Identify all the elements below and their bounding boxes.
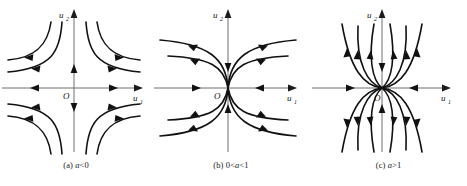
flow-arrow-b-q4-inner	[256, 111, 266, 118]
u2-label-c-letter: u	[367, 10, 372, 20]
traj-a-q3-inner	[8, 104, 62, 154]
flow-arrow-c-down	[379, 104, 386, 113]
flow-arrow-b-q2-inner	[190, 59, 200, 66]
traj-a-q2-inner	[8, 22, 62, 72]
flow-arrow-b-q1-outer	[258, 45, 268, 52]
u1-axis-a	[2, 85, 143, 92]
traj-a-q4-outer	[97, 116, 140, 154]
flow-arrow-a-up	[71, 64, 78, 73]
flow-arrow-b-right	[255, 85, 264, 92]
caption-a: (a) a<0	[0, 160, 152, 170]
caption-b-zero: 0<	[226, 160, 235, 170]
panel-c-plot: u 2 u 1 O	[310, 0, 467, 160]
u1-axis-label-c: u 1	[441, 93, 451, 105]
phase-portrait-figure: u 2 u 1 O	[0, 0, 467, 186]
panel-a-saddle: u 2 u 1 O	[0, 0, 152, 186]
traj-c-q2-inner	[371, 24, 382, 88]
u2-axis-a	[71, 9, 78, 152]
flow-arrow-c-q2-inner	[367, 50, 374, 59]
caption-b-prefix: (b)	[213, 160, 223, 170]
u2-axis-label-c: u 2	[367, 10, 377, 22]
u1-label-c-subscript: 1	[448, 99, 451, 105]
u1-axis-label-b: u 1	[287, 93, 297, 105]
u1-label-b-subscript: 1	[294, 99, 297, 105]
flow-arrow-b-down	[225, 104, 232, 113]
u2-axis-c	[379, 9, 386, 152]
caption-c: (c) a>1	[310, 160, 467, 170]
flow-arrow-a-down	[71, 103, 78, 112]
u2-axis-label-b: u 2	[213, 10, 223, 22]
caption-b-one: <1	[239, 160, 248, 170]
flow-arrow-c-right	[409, 85, 418, 92]
flow-arrow-b-q2-outer	[188, 45, 198, 52]
traj-c-q4-inner	[382, 88, 393, 152]
traj-a-q4-inner	[86, 104, 140, 154]
panel-b-plot: u 2 u 1 O	[152, 0, 310, 160]
u2-label-a-letter: u	[59, 10, 64, 20]
flow-arrow-b-left	[192, 85, 201, 92]
u1-axis-label-a: u 1	[133, 93, 143, 105]
traj-a-q1-outer	[97, 22, 140, 60]
flow-arrow-b-up	[225, 63, 232, 72]
caption-b: (b) 0<a<1	[152, 160, 310, 170]
u2-label-b-subscript: 2	[220, 16, 223, 22]
traj-a-q2-outer	[8, 22, 51, 60]
caption-a-prefix: (a)	[63, 160, 73, 170]
caption-c-relation: >1	[392, 160, 401, 170]
panel-c-node: u 2 u 1 O	[310, 0, 467, 186]
flow-arrow-c-q3-inner	[367, 117, 374, 126]
flow-arrow-c-up	[379, 63, 386, 72]
flow-arrow-a-right	[109, 85, 118, 92]
u1-label-a-letter: u	[133, 93, 138, 103]
flow-arrow-b-q3-inner	[190, 111, 200, 118]
traj-a-q1-inner	[86, 22, 140, 72]
u1-axis-b	[154, 85, 297, 92]
traj-a-q3-outer	[8, 116, 51, 154]
flow-arrow-c-q4-inner	[391, 117, 398, 126]
caption-a-relation: <0	[80, 160, 89, 170]
panel-b-node: u 2 u 1 O	[152, 0, 310, 186]
origin-label-b: O	[214, 91, 221, 101]
origin-label-a: O	[63, 91, 70, 101]
u2-label-b-letter: u	[213, 10, 218, 20]
flow-arrow-b-q3-outer	[188, 125, 198, 132]
traj-c-q1-inner	[382, 24, 393, 88]
flow-arrow-b-q1-inner	[256, 59, 266, 66]
flow-arrow-b-q4-outer	[258, 125, 268, 132]
u2-axis-label-a: u 2	[59, 10, 69, 22]
u1-label-c-letter: u	[441, 93, 446, 103]
flow-arrow-a-left	[30, 85, 39, 92]
u1-label-b-letter: u	[287, 93, 292, 103]
flow-arrow-c-left	[346, 85, 355, 92]
panel-a-plot: u 2 u 1 O	[0, 0, 152, 160]
caption-c-prefix: (c)	[376, 160, 386, 170]
flow-arrow-c-q1-inner	[391, 50, 398, 59]
u2-label-a-subscript: 2	[66, 16, 69, 22]
u2-label-c-subscript: 2	[374, 16, 377, 22]
